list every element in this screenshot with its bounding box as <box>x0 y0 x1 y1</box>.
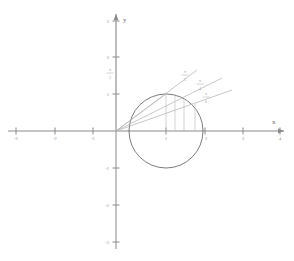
y-tick-label--1: -1 <box>105 166 109 171</box>
y-axis-label: y <box>123 16 127 24</box>
ray-pi-over-4 <box>116 78 222 131</box>
angle-label-pi-over-4: π 4 <box>197 78 204 91</box>
angle-label-pi-over-6-numerator: π <box>205 91 208 96</box>
angle-label-pi-over-3: π 3 <box>182 69 189 82</box>
angle-label-pi-over-2-numerator: π <box>109 67 112 72</box>
ray-pi-over-6 <box>116 90 232 131</box>
y-tick-label-1: 1 <box>107 92 109 97</box>
angle-label-pi-over-4-numerator: π <box>199 78 202 83</box>
y-tick-label-3: 3 <box>107 19 110 24</box>
angle-label-pi-over-2-denominator: 2 <box>109 75 111 80</box>
y-ticks-group: 3 2 1 -1 -2 -3 <box>105 19 119 245</box>
angle-label-pi-over-2: π 2 <box>107 67 114 80</box>
y-tick-label-2: 2 <box>107 55 109 60</box>
angle-label-pi-over-3-denominator: 3 <box>184 77 186 82</box>
x-tick-label--1: -1 <box>91 136 95 141</box>
angle-label-pi-over-6-denominator: 6 <box>205 99 207 104</box>
angle-label-pi-over-6: π 6 <box>203 91 210 104</box>
x-tick-label--3: -3 <box>14 136 18 141</box>
x-tick-label--2: -2 <box>53 136 57 141</box>
x-axis-arrow <box>278 129 284 134</box>
drop-lines-group <box>166 94 195 131</box>
chord-to-circle-top <box>116 94 166 131</box>
x-tick-label-2: 2 <box>205 136 207 141</box>
figure-canvas: -3 -2 -1 1 2 3 4 3 2 1 -1 -2 -3 x y <box>0 0 294 261</box>
x-axis-label: x <box>272 118 276 126</box>
y-tick-label--3: -3 <box>105 240 109 245</box>
x-tick-label-3: 3 <box>242 136 245 141</box>
y-tick-label--2: -2 <box>105 203 109 208</box>
coordinate-plot: -3 -2 -1 1 2 3 4 3 2 1 -1 -2 -3 x y <box>0 0 294 261</box>
angle-label-pi-over-3-numerator: π <box>184 69 187 74</box>
x-ticks-group: -3 -2 -1 1 2 3 4 <box>14 128 282 142</box>
y-axis-arrow <box>114 14 119 20</box>
x-tick-label-4: 4 <box>279 136 282 141</box>
x-tick-label-1: 1 <box>165 136 167 141</box>
